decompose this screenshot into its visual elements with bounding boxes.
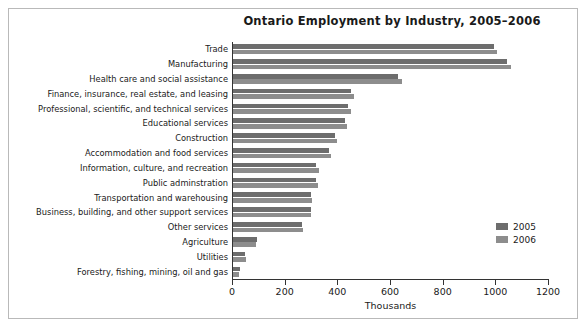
category-axis-labels: TradeManufacturingHealth care and social… xyxy=(20,42,228,280)
x-tick-label: 600 xyxy=(381,286,399,297)
bar-2006 xyxy=(232,139,337,144)
x-axis-label: Thousands xyxy=(232,300,549,311)
bar-2006 xyxy=(232,94,354,99)
bar-2005 xyxy=(232,59,507,64)
category-label: Educational services xyxy=(143,119,228,127)
bar-2006 xyxy=(232,79,402,84)
bar-2006 xyxy=(232,257,246,262)
bar-2006 xyxy=(232,228,303,233)
category-label: Forestry, fishing, mining, oil and gas xyxy=(77,268,228,276)
bar-2005 xyxy=(232,252,245,257)
category-label: Construction xyxy=(175,134,228,142)
x-tick xyxy=(443,280,444,285)
chart-figure: Ontario Employment by Industry, 2005–200… xyxy=(0,0,586,327)
x-tick xyxy=(390,280,391,285)
bar-2006 xyxy=(232,124,347,129)
legend-swatch-icon xyxy=(496,236,508,243)
x-tick xyxy=(495,280,496,285)
x-tick-label: 400 xyxy=(328,286,346,297)
bar-2006 xyxy=(232,272,239,277)
legend-item: 2005 xyxy=(496,221,536,232)
bar-2005 xyxy=(232,222,302,227)
bar-2005 xyxy=(232,44,494,49)
x-tick xyxy=(285,280,286,285)
category-label: Transportation and warehousing xyxy=(94,194,228,202)
bar-2006 xyxy=(232,65,511,70)
x-tick xyxy=(232,280,233,285)
chart-legend: 20052006 xyxy=(496,221,536,247)
legend-label: 2006 xyxy=(513,235,536,245)
legend-swatch-icon xyxy=(496,223,508,230)
legend-item: 2006 xyxy=(496,234,536,245)
bar-2005 xyxy=(232,89,351,94)
bar-2005 xyxy=(232,133,335,138)
bar-2005 xyxy=(232,267,240,272)
category-label: Information, culture, and recreation xyxy=(80,164,228,172)
category-label: Agriculture xyxy=(182,238,228,246)
category-label: Utilities xyxy=(197,253,228,261)
bar-2006 xyxy=(232,242,256,247)
category-label: Professional, scientific, and technical … xyxy=(38,105,228,113)
category-label: Manufacturing xyxy=(168,60,228,68)
x-tick xyxy=(337,280,338,285)
bar-2006 xyxy=(232,198,312,203)
x-tick-label: 1200 xyxy=(536,286,560,297)
bar-2006 xyxy=(232,183,318,188)
x-tick-label: 200 xyxy=(276,286,294,297)
category-label: Trade xyxy=(205,45,228,53)
chart-title: Ontario Employment by Industry, 2005–200… xyxy=(232,14,552,28)
bar-2005 xyxy=(232,192,311,197)
x-tick-label: 1000 xyxy=(483,286,507,297)
x-tick-label: 0 xyxy=(229,286,235,297)
bar-2006 xyxy=(232,109,351,114)
bar-2006 xyxy=(232,168,319,173)
bar-2006 xyxy=(232,50,497,55)
bar-2005 xyxy=(232,178,316,183)
bar-2005 xyxy=(232,74,398,79)
bar-2006 xyxy=(232,213,311,218)
category-label: Finance, insurance, real estate, and lea… xyxy=(47,90,228,98)
legend-label: 2005 xyxy=(513,222,536,232)
bar-2005 xyxy=(232,104,348,109)
category-label: Business, building, and other support se… xyxy=(36,208,228,216)
category-label: Health care and social assistance xyxy=(89,75,228,83)
y-axis-line xyxy=(232,42,233,280)
bar-2005 xyxy=(232,207,311,212)
bar-2005 xyxy=(232,148,329,153)
bar-2005 xyxy=(232,163,316,168)
bar-2005 xyxy=(232,237,257,242)
category-label: Accommodation and food services xyxy=(85,149,228,157)
x-tick-label: 800 xyxy=(434,286,452,297)
bar-2005 xyxy=(232,118,345,123)
bar-2006 xyxy=(232,154,331,159)
x-tick xyxy=(548,280,549,285)
category-label: Other services xyxy=(168,223,228,231)
category-label: Public adminstration xyxy=(143,179,228,187)
